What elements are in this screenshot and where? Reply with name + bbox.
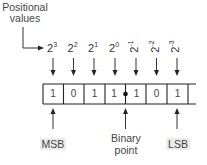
- power-2-1: 21: [88, 41, 98, 54]
- title-line2: values: [0, 13, 50, 24]
- bit-cell: 0: [146, 88, 167, 99]
- power-2-neg2: 2-2: [147, 40, 160, 52]
- power-2-neg1: 2-1: [127, 40, 140, 52]
- leader-arrowhead-icon: [38, 46, 44, 51]
- binary-point-label: Binary point: [105, 132, 147, 156]
- power-2-neg3: 2-3: [168, 40, 181, 52]
- up-arrows: [51, 108, 180, 129]
- lsb-label: LSB: [163, 138, 193, 150]
- bit-cell: 1: [127, 88, 146, 99]
- bit-cell: 1: [84, 88, 105, 99]
- bit-cell: 1: [167, 88, 188, 99]
- leader-line: [23, 27, 38, 48]
- down-arrows: [51, 58, 180, 76]
- bit-cell: 1: [43, 88, 63, 99]
- bit-cell: 1: [105, 88, 123, 99]
- title: Positional values: [0, 2, 50, 24]
- power-2-3: 23: [47, 41, 57, 54]
- bit-cell: 0: [64, 88, 84, 99]
- msb-label: MSB: [38, 138, 68, 150]
- power-2-0: 20: [109, 41, 119, 54]
- power-2-2: 22: [68, 41, 78, 54]
